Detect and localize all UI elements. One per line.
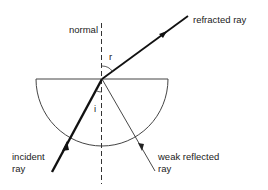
angle-r-label: r xyxy=(109,51,112,62)
angle-r-arc xyxy=(102,66,113,71)
normal-label: normal xyxy=(69,24,98,35)
weak-reflected-label-line2: ray xyxy=(158,163,171,174)
weak-reflected-ray xyxy=(102,79,155,171)
refraction-diagram: normal refracted ray r i incident ray we… xyxy=(0,0,268,190)
refracted-ray-label: refracted ray xyxy=(193,14,247,25)
incident-ray xyxy=(52,79,102,172)
diagram-canvas: normal refracted ray r i incident ray we… xyxy=(0,0,268,190)
weak-reflected-label-line1: weak reflected xyxy=(157,151,219,162)
incident-ray-label-line2: ray xyxy=(12,163,25,174)
refracted-ray xyxy=(102,16,188,79)
angle-i-label: i xyxy=(94,103,96,114)
incident-ray-label-line1: incident xyxy=(12,151,45,162)
